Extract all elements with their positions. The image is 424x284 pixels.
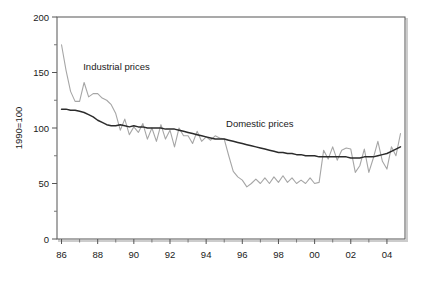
y-axis-major-ticks (52, 17, 57, 239)
x-axis-tick-label: 94 (201, 249, 212, 260)
x-axis-tick-label: 92 (165, 249, 176, 260)
y-axis-tick-labels: 050100150200 (33, 12, 49, 245)
x-axis-tick-labels: 86889092949698000204 (56, 249, 392, 260)
y-axis-tick-label: 0 (44, 234, 49, 245)
x-axis-tick-label: 00 (309, 249, 320, 260)
series-label: Industrial prices (83, 61, 150, 72)
x-axis-tick-label: 96 (237, 249, 248, 260)
line-chart: 050100150200 86889092949698000204 Indust… (0, 0, 424, 284)
x-axis-tick-label: 04 (382, 249, 393, 260)
x-axis-tick-label: 88 (92, 249, 103, 260)
x-axis-tick-label: 02 (345, 249, 356, 260)
x-axis-tick-label: 86 (56, 249, 67, 260)
x-axis-tick-label: 98 (273, 249, 284, 260)
series-label: Domestic prices (226, 118, 294, 129)
chart-figure: 050100150200 86889092949698000204 Indust… (0, 0, 424, 284)
y-axis-tick-label: 100 (33, 123, 49, 134)
y-axis-tick-label: 200 (33, 12, 49, 23)
y-axis-tick-label: 50 (38, 178, 49, 189)
y-axis-tick-label: 150 (33, 67, 49, 78)
y-axis-title: 1990=100 (13, 107, 24, 150)
x-axis-tick-label: 90 (129, 249, 140, 260)
